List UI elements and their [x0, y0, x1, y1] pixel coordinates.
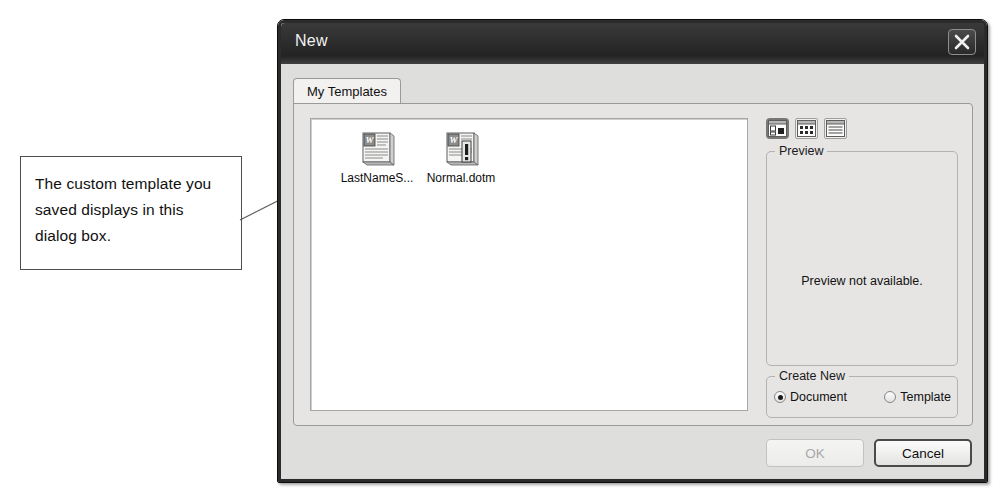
preview-groupbox-title: Preview: [775, 144, 827, 158]
view-button-group: [766, 118, 847, 139]
dialog-footer: OK Cancel: [281, 432, 986, 478]
preview-groupbox: Preview Preview not available.: [766, 151, 958, 366]
details-view-icon: [826, 120, 845, 137]
cancel-button[interactable]: Cancel: [874, 439, 972, 467]
large-icons-view-icon: [768, 120, 787, 137]
right-panel: Preview Preview not available. Create Ne…: [764, 118, 958, 414]
close-icon: [952, 33, 972, 51]
dialog-title: New: [295, 32, 328, 50]
template-item-label: Normal.dotm: [419, 171, 503, 185]
template-list[interactable]: W: [310, 118, 748, 411]
radio-option-document[interactable]: Document: [774, 390, 847, 404]
small-icons-view-button[interactable]: [795, 118, 818, 139]
template-item-lastname[interactable]: W: [335, 129, 419, 185]
create-new-radio-group: Document Template: [774, 390, 951, 404]
create-new-groupbox: Create New Document Template: [766, 376, 958, 418]
tab-page-my-templates: W: [293, 103, 973, 426]
radio-label-template: Template: [900, 390, 951, 404]
large-icons-view-button[interactable]: [766, 118, 789, 139]
annotation-callout: The custom template you saved displays i…: [20, 156, 242, 270]
preview-message: Preview not available.: [767, 274, 957, 288]
template-item-label: LastNameS...: [335, 171, 419, 185]
word-macro-template-icon: W: [443, 129, 479, 167]
dialog-body: My Templates W: [281, 64, 986, 478]
create-new-groupbox-title: Create New: [775, 369, 849, 383]
details-view-button[interactable]: [824, 118, 847, 139]
ok-button[interactable]: OK: [766, 439, 864, 467]
new-dialog-window: New My Templates W: [277, 19, 988, 483]
radio-option-template[interactable]: Template: [884, 390, 951, 404]
svg-text:W: W: [365, 135, 374, 145]
tab-strip: My Templates: [293, 78, 973, 104]
tab-my-templates[interactable]: My Templates: [293, 78, 401, 104]
close-button[interactable]: [948, 29, 976, 55]
radio-mark-document[interactable]: [774, 391, 786, 403]
dialog-titlebar[interactable]: New: [281, 23, 986, 64]
word-template-icon: W: [359, 129, 395, 167]
warning-badge-icon: [462, 141, 471, 162]
radio-label-document: Document: [790, 390, 847, 404]
radio-mark-template[interactable]: [884, 391, 896, 403]
small-icons-view-icon: [797, 120, 816, 137]
template-item-normal-dotm[interactable]: W: [419, 129, 503, 185]
svg-text:W: W: [449, 135, 458, 145]
annotation-callout-text: The custom template you saved displays i…: [35, 171, 228, 249]
